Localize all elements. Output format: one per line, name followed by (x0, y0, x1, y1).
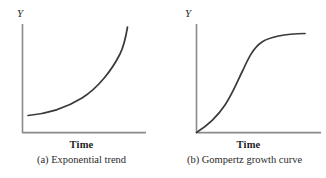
y-axis-label: Y (17, 8, 23, 19)
panel-gompertz-growth-curve: Y Time (b) Gompertz growth curve (163, 0, 326, 178)
plot-area-gompertz (163, 0, 326, 140)
panel-exponential-trend: Y Time (a) Exponential trend (0, 0, 163, 178)
x-axis-label: Time (0, 139, 163, 150)
gompertz-curve (197, 34, 306, 133)
x-axis-label: Time (167, 139, 326, 150)
panel-caption: (b) Gompertz growth curve (163, 154, 326, 166)
exponential-curve (28, 27, 128, 116)
figure-panel-row: Y Time (a) Exponential trend Y Time (b) … (0, 0, 326, 178)
y-axis-label: Y (185, 8, 191, 19)
panel-caption: (a) Exponential trend (0, 154, 163, 166)
axes-exponential (22, 24, 146, 133)
plot-area-exponential (0, 0, 163, 140)
